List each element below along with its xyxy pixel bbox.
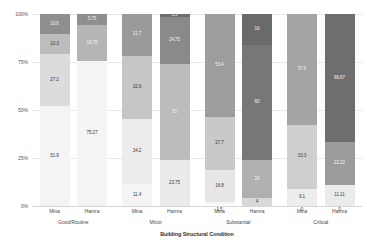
bar-segment[interactable]: 66.67: [325, 14, 355, 142]
bar-segment-value: 23.75: [169, 181, 180, 186]
bar-segment-value: 22.22: [334, 161, 345, 166]
bar-mina[interactable]: 57.633.39.10: [287, 14, 317, 206]
bar-segment[interactable]: 75.27: [77, 61, 107, 206]
bar-segment-value: 10.3: [50, 42, 59, 47]
bar-segment[interactable]: 33.3: [287, 125, 317, 189]
plot-area: 10.610.327.251.90.115.7518.7875.2721.732…: [32, 14, 362, 206]
bar-segment-value: 27.7: [215, 141, 224, 146]
bar-hamra[interactable]: 1660204: [242, 14, 272, 206]
bar-segment-value: 51.9: [50, 154, 59, 159]
bar-segment[interactable]: 51.9: [40, 106, 70, 206]
bar-segment-value: 50: [172, 110, 177, 115]
bar-segment-value: 60: [255, 100, 260, 105]
bar-segment-value: 9.1: [299, 195, 305, 200]
bar-segment[interactable]: 18.78: [77, 25, 107, 61]
bar-segment-value: 16: [255, 27, 260, 32]
x-axis-line: [32, 206, 362, 207]
x-axis-group-label: Minor: [115, 219, 198, 231]
bar-segment[interactable]: 34.2: [122, 119, 152, 185]
bar-hamra[interactable]: 1.524.755023.75: [160, 14, 190, 206]
y-axis-tick-label: 0%: [21, 203, 28, 209]
bar-segment-value: 24.75: [169, 38, 180, 43]
bar-segment-value: 75.27: [87, 131, 98, 136]
bar-segment-value: 33.3: [298, 154, 307, 159]
bar-mina[interactable]: 53.427.716.81.5: [205, 14, 235, 206]
bar-segment-value: 32.9: [133, 85, 142, 90]
y-axis: 0%25%50%75%100%: [0, 14, 32, 206]
bar-segment[interactable]: 9.1: [287, 189, 317, 206]
bar-segment[interactable]: 10.3: [40, 34, 70, 54]
bar-segment[interactable]: 50: [160, 64, 190, 160]
x-axis-title: Building Structural Condition: [32, 231, 362, 237]
bar-segment[interactable]: 16: [242, 14, 272, 45]
bar-segment[interactable]: 11.11: [325, 185, 355, 206]
x-axis-group-label: Substantial: [197, 219, 280, 231]
bar-segment-value: 11.11: [334, 193, 344, 198]
bar-segment[interactable]: 4: [242, 198, 272, 206]
x-axis-group-label: Good/Routine: [32, 219, 115, 231]
bar-segment-value: 20: [255, 177, 260, 182]
bar-segment[interactable]: 22.22: [325, 142, 355, 185]
bar-segment-value: 4: [256, 200, 258, 205]
bar-segment-value: 34.2: [133, 149, 142, 154]
bar-segment[interactable]: 11.4: [122, 184, 152, 206]
bar-segment-value: 66.67: [334, 76, 345, 81]
bar-segment-value: 10.6: [50, 22, 59, 27]
bar-segment-value: 27.2: [50, 78, 59, 83]
bar-hamra[interactable]: 66.6722.2211.110: [325, 14, 355, 206]
bar-segment[interactable]: 57.6: [287, 14, 317, 125]
bar-segment-value: 16.8: [215, 184, 224, 189]
bar-group-minor: 21.732.934.211.41.524.755023.75: [115, 14, 198, 206]
bar-segment[interactable]: 32.9: [122, 56, 152, 119]
bar-segment[interactable]: 21.7: [122, 14, 152, 56]
bar-mina[interactable]: 21.732.934.211.4: [122, 14, 152, 206]
bar-hamra[interactable]: 0.115.7518.7875.27: [77, 14, 107, 206]
bar-segment-value: 5.75: [88, 17, 97, 22]
bar-group-critical: 57.633.39.1066.6722.2211.110: [280, 14, 363, 206]
bar-segment[interactable]: 24.75: [160, 17, 190, 65]
bar-segment[interactable]: 5.75: [77, 14, 107, 25]
bar-segment[interactable]: 23.75: [160, 160, 190, 206]
bar-segment-value: 18.78: [87, 41, 98, 46]
y-axis-tick-label: 75%: [18, 59, 28, 65]
bar-mina[interactable]: 10.610.327.251.9: [40, 14, 70, 206]
bar-segment[interactable]: 16.8: [205, 170, 235, 202]
bar-segment-value: 57.6: [298, 67, 307, 72]
bar-group-substantial: 53.427.716.81.51660204: [197, 14, 280, 206]
x-axis-group-labels: Good/RoutineMinorSubstantialCritical: [32, 219, 362, 231]
bar-group-good-routine: 10.610.327.251.90.115.7518.7875.27: [32, 14, 115, 206]
bar-segment[interactable]: 27.2: [40, 54, 70, 106]
y-axis-tick-label: 25%: [18, 155, 28, 161]
x-axis-group-label: Critical: [280, 219, 363, 231]
bar-segment[interactable]: [205, 202, 235, 205]
bar-segment[interactable]: 53.4: [205, 14, 235, 117]
y-axis-tick-label: 50%: [18, 107, 28, 113]
bar-segment-value: 11.4: [133, 193, 141, 198]
stacked-bar-chart: 0%25%50%75%100% 10.610.327.251.90.115.75…: [0, 0, 367, 250]
bar-segment[interactable]: 27.7: [205, 117, 235, 170]
bar-segment[interactable]: 10.6: [40, 14, 70, 34]
bar-segment-value: 53.4: [215, 63, 224, 68]
bars-container: 10.610.327.251.90.115.7518.7875.2721.732…: [32, 14, 362, 206]
y-axis-tick-label: 100%: [15, 11, 28, 17]
bar-segment[interactable]: 20: [242, 160, 272, 198]
bar-segment-value: 21.7: [133, 32, 142, 37]
bar-segment[interactable]: 60: [242, 45, 272, 160]
